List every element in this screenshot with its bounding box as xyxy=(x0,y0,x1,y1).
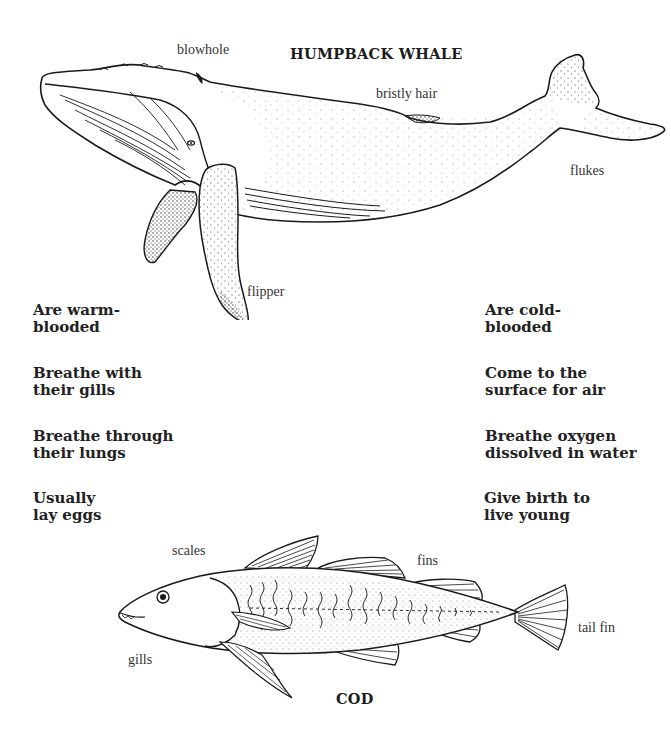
cod-scale-pattern xyxy=(248,580,500,630)
label-fins: fins xyxy=(417,553,438,569)
fact-right-1: Are cold- blooded xyxy=(485,302,671,336)
cod-body xyxy=(119,568,518,653)
cod-dorsal-fin-1 xyxy=(245,536,318,570)
fact-left-4: Usually lay eggs xyxy=(33,490,233,524)
cod-pectoral-fin xyxy=(232,612,290,630)
cod-anal-fin-2 xyxy=(418,620,480,642)
cod-anal-fin-1 xyxy=(330,640,399,665)
cod-dorsal-fin-3 xyxy=(410,579,482,604)
fact-left-1: Are warm- blooded xyxy=(33,302,233,336)
cod-title: COD xyxy=(336,690,374,707)
label-bristly-hair: bristly hair xyxy=(376,86,437,102)
fact-left-2: Breathe with their gills xyxy=(33,365,233,399)
fact-right-4: Give birth to live young xyxy=(484,490,671,524)
cod-dorsal-fin-2 xyxy=(315,558,405,579)
cod-gill-cover xyxy=(205,578,240,647)
label-gills: gills xyxy=(128,652,152,668)
fact-left-3: Breathe through their lungs xyxy=(33,428,233,462)
cod-tail-fin xyxy=(515,585,568,650)
fact-right-2: Come to the surface for air xyxy=(485,365,671,399)
label-blowhole: blowhole xyxy=(177,42,229,58)
label-flipper: flipper xyxy=(247,284,284,300)
cod-pelvic-fin xyxy=(220,642,292,698)
cod-eye xyxy=(157,591,169,603)
label-tail-fin: tail fin xyxy=(578,620,615,636)
whale-far-flipper xyxy=(144,190,197,263)
label-scales: scales xyxy=(172,543,205,559)
fact-right-3: Breathe oxygen dissolved in water xyxy=(485,428,671,462)
whale-title: HUMPBACK WHALE xyxy=(290,45,463,62)
cod-mouth xyxy=(120,613,145,617)
label-flukes: flukes xyxy=(570,163,604,179)
